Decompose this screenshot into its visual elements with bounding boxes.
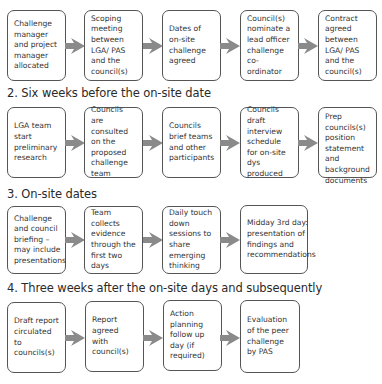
step-box: Evaluation of the peer challenge by PAS [240, 300, 300, 373]
arrow-right-icon [220, 330, 240, 346]
step-label: Councils draft interview schedule for on… [247, 105, 292, 179]
step-label: Draft report circulated to councils(s) [14, 316, 59, 358]
step-box: Daily touch down sessions to share emerg… [162, 206, 221, 274]
step-label: LGA team start preliminary research [14, 121, 59, 163]
step-box: Challenge manager and project manager al… [7, 10, 66, 81]
section-heading: 3. On-site dates [7, 187, 97, 201]
section-heading: 4. Three weeks after the on-site days an… [7, 281, 322, 295]
section-heading: 2. Six weeks before the on-site date [7, 86, 211, 100]
step-box: Midday 3rd day: presentation of findings… [240, 205, 308, 274]
step-label: Evaluation of the peer challenge by PAS [247, 315, 293, 357]
step-label: Dates of on-site challenge agreed [169, 24, 214, 66]
step-label: Councils are consulted on the proposed c… [91, 105, 136, 179]
arrow-right-icon [143, 330, 163, 346]
step-label: Scoping meeting between LGA/ PAS and the… [91, 14, 136, 78]
step-box: LGA team start preliminary research [7, 107, 66, 178]
step-box: Team collects evidence through the first… [84, 206, 143, 274]
step-label: Councils brief teams and other participa… [169, 121, 214, 163]
step-box: Action planning follow up day (if requir… [163, 300, 222, 371]
step-box: Challenge and council briefing – may inc… [7, 206, 66, 274]
step-label: Action planning follow up day (if requir… [170, 309, 215, 362]
step-box: Councils brief teams and other participa… [162, 107, 221, 178]
step-box: Councils are consulted on the proposed c… [84, 107, 143, 178]
arrow-right-icon [143, 38, 163, 54]
step-label: Midday 3rd day: presentation of findings… [247, 218, 316, 260]
arrow-right-icon [220, 135, 240, 151]
arrow-right-icon [143, 232, 163, 248]
arrow-right-icon [65, 330, 85, 346]
arrow-right-icon [65, 38, 85, 54]
step-box: Prep councils(s) position statement and … [318, 107, 377, 178]
arrow-right-icon [143, 135, 163, 151]
step-box: Contract agreed between LGA/ PAS and the… [318, 10, 377, 81]
step-label: Council(s) nominate a lead officer chall… [247, 14, 292, 78]
step-box: Council(s) nominate a lead officer chall… [240, 10, 299, 81]
step-box: Draft report circulated to councils(s) [7, 302, 66, 373]
arrow-right-icon [65, 232, 85, 248]
step-label: Daily touch down sessions to share emerg… [169, 208, 214, 272]
step-box: Dates of on-site challenge agreed [162, 10, 221, 81]
arrow-right-icon [220, 38, 240, 54]
step-label: Challenge and council briefing – may inc… [14, 214, 66, 267]
step-label: Prep councils(s) position statement and … [325, 112, 370, 186]
arrow-right-icon [220, 232, 240, 248]
step-box: Report agreed with council(s) [85, 301, 144, 372]
step-label: Report agreed with council(s) [92, 315, 137, 357]
step-label: Team collects evidence through the first… [91, 208, 136, 272]
step-label: Challenge manager and project manager al… [14, 19, 59, 72]
step-box: Councils draft interview schedule for on… [240, 107, 299, 178]
arrow-right-icon [298, 38, 318, 54]
arrow-right-icon [65, 135, 85, 151]
step-box: Scoping meeting between LGA/ PAS and the… [84, 10, 143, 81]
step-label: Contract agreed between LGA/ PAS and the… [325, 14, 370, 78]
arrow-right-icon [298, 135, 318, 151]
